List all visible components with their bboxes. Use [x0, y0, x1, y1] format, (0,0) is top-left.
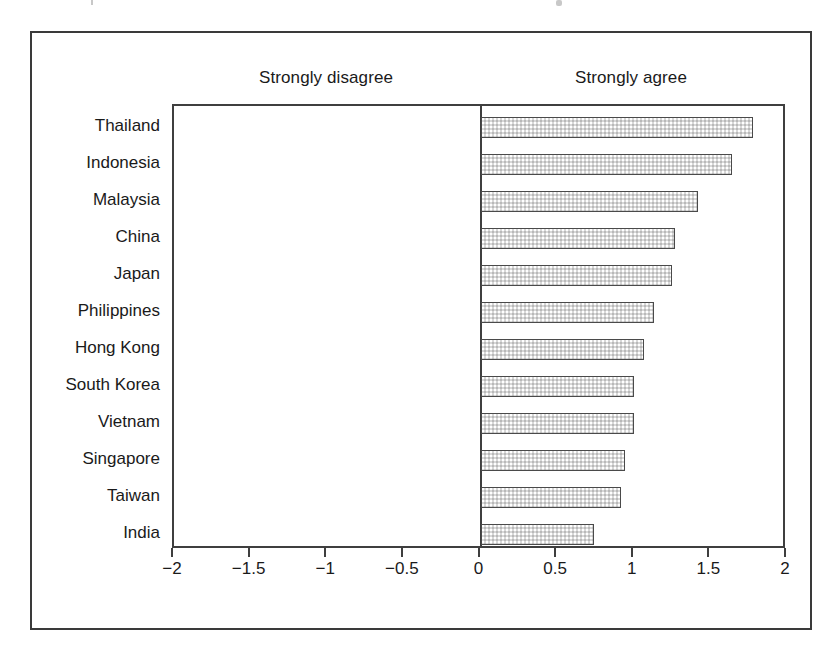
bar — [481, 265, 673, 286]
plot-area — [172, 104, 785, 548]
bar — [481, 191, 699, 212]
axis-tick — [248, 548, 250, 557]
axis-tick-label: 2 — [780, 559, 789, 579]
pole-label-disagree: Strongly disagree — [259, 68, 393, 88]
bar — [481, 154, 732, 175]
category-label: Japan — [0, 263, 160, 284]
axis-tick — [171, 548, 173, 557]
bar — [481, 228, 676, 249]
category-label: Thailand — [0, 115, 160, 136]
category-label: Taiwan — [0, 485, 160, 506]
axis-tick-label: −1 — [316, 559, 335, 579]
axis-tick — [631, 548, 633, 557]
bar — [481, 487, 622, 508]
axis-tick-label: 0.5 — [543, 559, 567, 579]
axis-tick — [554, 548, 556, 557]
category-label: South Korea — [0, 374, 160, 395]
axis-tick — [784, 548, 786, 557]
bar — [481, 524, 594, 545]
category-label: China — [0, 226, 160, 247]
category-label: Malaysia — [0, 189, 160, 210]
category-label: Philippines — [0, 300, 160, 321]
axis-tick-label: 1.5 — [697, 559, 721, 579]
axis-tick-label: 1 — [627, 559, 636, 579]
bar — [481, 117, 754, 138]
bar — [481, 413, 634, 434]
bar — [481, 376, 634, 397]
category-axis-labels: ThailandIndonesiaMalaysiaChinaJapanPhili… — [0, 104, 160, 548]
bar-chart: Strongly disagree Strongly agree Thailan… — [0, 0, 838, 657]
axis-tick — [324, 548, 326, 557]
axis-tick-label: −0.5 — [385, 559, 419, 579]
bar — [481, 302, 654, 323]
axis-tick-label: 0 — [474, 559, 483, 579]
axis-tick-label: −1.5 — [232, 559, 266, 579]
axis-tick-label: −2 — [162, 559, 181, 579]
axis-tick — [707, 548, 709, 557]
category-label: India — [0, 522, 160, 543]
bar — [481, 339, 645, 360]
category-label: Hong Kong — [0, 337, 160, 358]
category-label: Vietnam — [0, 411, 160, 432]
axis-tick — [478, 548, 480, 557]
axis-tick — [401, 548, 403, 557]
bar — [481, 450, 625, 471]
pole-label-agree: Strongly agree — [575, 68, 687, 88]
category-label: Singapore — [0, 448, 160, 469]
value-axis: −2−1.5−1−0.500.511.52 — [172, 548, 785, 594]
category-label: Indonesia — [0, 152, 160, 173]
